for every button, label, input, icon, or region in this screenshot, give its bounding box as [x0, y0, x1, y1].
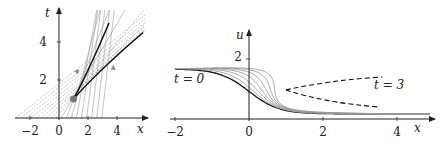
x-tick-label: 4 [113, 124, 121, 138]
x-tick-label: −2 [166, 125, 184, 139]
profiles-plot: −20242 x u t = 0 t = 3 [166, 28, 435, 139]
x-tick-label: 4 [393, 125, 401, 139]
fold-curve [286, 77, 382, 107]
y-tick-label: 2 [234, 50, 242, 64]
tick-labels: −202424 [21, 35, 121, 138]
characteristic-lines [16, 4, 177, 118]
x-tick-label: 2 [319, 125, 327, 139]
t-axis-label: t [45, 6, 50, 20]
y-tick-label: 2 [39, 73, 47, 87]
x-axis-label: x [414, 121, 421, 135]
label-t0: t = 0 [174, 72, 205, 86]
u-axis-label: u [236, 28, 244, 42]
label-t3: t = 3 [374, 78, 405, 92]
y-tick-label: 4 [39, 35, 47, 49]
tick-labels: −20242 [166, 50, 401, 139]
characteristics-plot: −202424 x t [15, 4, 177, 138]
figure: −202424 x t −20242 x u t = 0 t = 3 [0, 0, 447, 147]
x-axis-label: x [137, 122, 144, 136]
x-tick-label: 0 [55, 124, 63, 138]
shock-origin-dot [70, 96, 77, 103]
x-tick-label: 0 [245, 125, 253, 139]
x-tick-label: 2 [84, 124, 92, 138]
x-tick-label: −2 [21, 124, 39, 138]
